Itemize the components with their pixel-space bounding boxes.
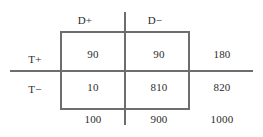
row-total-test-negative: 820 <box>194 81 250 93</box>
cell-false-positive: 90 <box>128 48 190 60</box>
column-header-disease-negative: D− <box>127 14 183 26</box>
cell-false-negative: 10 <box>62 81 124 93</box>
column-total-disease-positive: 100 <box>62 113 124 125</box>
contingency-table-figure: D+ D− T+ T− 90 90 10 810 180 820 100 900… <box>0 0 263 137</box>
column-header-disease-positive: D+ <box>57 14 113 26</box>
grand-total: 1000 <box>194 113 250 125</box>
cell-true-positive: 90 <box>62 48 124 60</box>
row-total-test-positive: 180 <box>194 48 250 60</box>
matrix-border-box <box>60 31 190 110</box>
column-total-disease-negative: 900 <box>128 113 190 125</box>
cell-true-negative: 810 <box>128 81 190 93</box>
row-header-test-positive: T+ <box>12 53 58 65</box>
row-header-test-negative: T− <box>12 83 58 95</box>
